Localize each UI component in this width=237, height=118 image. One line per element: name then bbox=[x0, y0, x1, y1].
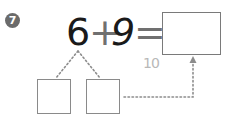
split-line-left bbox=[56, 51, 78, 78]
arrow-up-icon bbox=[190, 56, 197, 63]
decomposition-box-left[interactable] bbox=[37, 79, 71, 114]
decomposition-box-right[interactable] bbox=[86, 79, 120, 114]
split-line-right bbox=[78, 51, 100, 78]
carry-line bbox=[124, 63, 193, 97]
